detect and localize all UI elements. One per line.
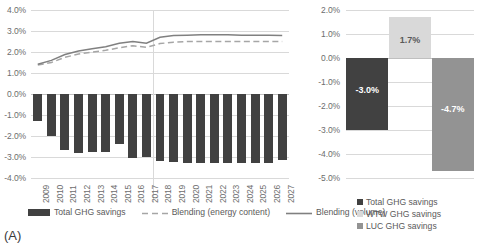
x-axis-tick-label: 2027 — [286, 185, 296, 203]
legend-item-luc-ghg-savings: LUC GHG savings — [357, 220, 441, 232]
line-series-layer — [31, 10, 289, 178]
legend-bar-swatch-icon — [28, 209, 50, 216]
x-axis-tick-label: 2022 — [218, 185, 228, 203]
legend-square-icon — [357, 211, 363, 217]
legend-item-wtw-ghg-savings: WTW GHG savings — [357, 208, 441, 220]
figure-root: 4.0%3.0%2.0%1.0%0.0%-1.0%-2.0%-3.0%-4.0%… — [0, 0, 482, 249]
y-axis-tick-label: 1.0% — [321, 29, 340, 39]
y-axis-tick-label: -1.0% — [318, 77, 340, 87]
y-axis-tick-label: 2.0% — [7, 47, 26, 57]
legend-square-icon — [357, 223, 363, 229]
bar-data-label: 1.7% — [400, 35, 421, 45]
y-axis-tick-label: -5.0% — [318, 173, 340, 183]
x-axis-tick-label: 2020 — [191, 185, 201, 203]
panel-b-y-axis-labels: 2.0%1.0%0.0%-1.0%-2.0%-3.0%-4.0%-5.0% — [298, 0, 340, 198]
y-axis-tick-label: -4.0% — [318, 149, 340, 159]
y-axis-tick-label: -3.0% — [318, 125, 340, 135]
x-axis-tick-label: 2014 — [109, 185, 119, 203]
x-axis-tick-label: 2015 — [123, 185, 133, 203]
legend-label: LUC GHG savings — [366, 221, 437, 231]
x-axis-tick-label: 2018 — [163, 185, 173, 203]
x-axis-tick-label: 2026 — [272, 185, 282, 203]
legend-label: Total GHG savings — [54, 207, 126, 217]
legend-label: Blending (energy content) — [172, 207, 270, 217]
x-axis-tick-label: 2017 — [150, 185, 160, 203]
panel-b-legend: Total GHG savings WTW GHG savings LUC GH… — [357, 196, 441, 232]
bar-data-label: -3.0% — [356, 85, 380, 95]
legend-item-total-ghg-savings: Total GHG savings — [357, 196, 441, 208]
bar-data-label: -4.7% — [441, 104, 465, 114]
x-axis-tick-label: 2013 — [96, 185, 106, 203]
legend-square-icon — [357, 199, 363, 205]
y-axis-tick-label: -2.0% — [318, 101, 340, 111]
line-series — [38, 35, 282, 64]
legend-dashed-line-icon — [142, 209, 168, 216]
y-axis-tick-label: 4.0% — [7, 5, 26, 15]
y-axis-tick-label: -1.0% — [4, 110, 26, 120]
legend-label: Total GHG savings — [366, 197, 438, 207]
panel-a-y-axis-labels: 4.0%3.0%2.0%1.0%0.0%-1.0%-2.0%-3.0%-4.0% — [0, 0, 26, 198]
x-axis-tick-label: 2025 — [258, 185, 268, 203]
x-axis-tick-label: 2016 — [136, 185, 146, 203]
line-series — [38, 42, 282, 66]
gridline — [346, 178, 474, 179]
x-axis-tick-label: 2023 — [231, 185, 241, 203]
y-axis-tick-label: 0.0% — [321, 53, 340, 63]
y-axis-tick-label: -2.0% — [4, 131, 26, 141]
x-axis-tick-label: 2021 — [204, 185, 214, 203]
gridline — [346, 10, 474, 11]
legend-label: WTW GHG savings — [366, 209, 441, 219]
y-axis-tick-label: 2.0% — [321, 5, 340, 15]
y-axis-tick-label: -4.0% — [4, 173, 26, 183]
panel-a-plot-area — [31, 10, 289, 178]
x-axis-tick-label: 2012 — [82, 185, 92, 203]
bar — [432, 58, 474, 171]
gridline — [31, 178, 289, 179]
y-axis-tick-label: -3.0% — [4, 152, 26, 162]
legend-item-total-ghg-savings: Total GHG savings — [28, 207, 126, 217]
y-axis-tick-label: 3.0% — [7, 26, 26, 36]
x-axis-tick-label: 2024 — [245, 185, 255, 203]
x-axis-tick-label: 2019 — [177, 185, 187, 203]
x-axis-tick-label: 2010 — [55, 185, 65, 203]
chart-panel-b: 2.0%1.0%0.0%-1.0%-2.0%-3.0%-4.0%-5.0% -3… — [298, 0, 482, 249]
panel-a-tag: (A) — [4, 228, 21, 243]
panel-b-plot-area: -3.0%1.7%-4.7% — [346, 10, 474, 178]
x-axis-tick-label: 2009 — [41, 185, 51, 203]
y-axis-tick-label: 1.0% — [7, 68, 26, 78]
chart-panel-a: 4.0%3.0%2.0%1.0%0.0%-1.0%-2.0%-3.0%-4.0%… — [0, 0, 298, 249]
x-axis-tick-label: 2011 — [68, 186, 78, 203]
y-axis-tick-label: 0.0% — [7, 89, 26, 99]
legend-item-blending-energy-content: Blending (energy content) — [142, 207, 270, 217]
